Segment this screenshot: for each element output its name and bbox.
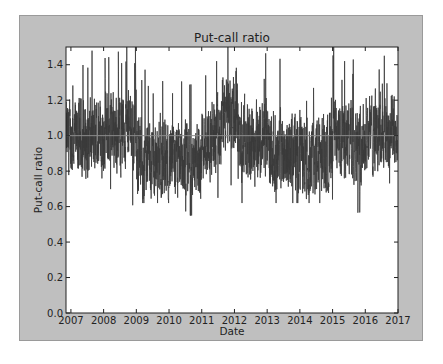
plot-area <box>66 47 398 313</box>
y-tick-label: 1.0 <box>47 130 63 141</box>
x-tick-label: 2016 <box>353 315 378 326</box>
x-tick-label: 2008 <box>91 315 116 326</box>
y-tick-label: 1.4 <box>47 59 63 70</box>
x-tick-label: 2010 <box>156 315 181 326</box>
y-tick-label: 0.6 <box>47 201 63 212</box>
chart: 0.00.20.40.60.81.01.21.4 200720082009201… <box>0 0 443 364</box>
x-axis-label: Date <box>219 325 244 337</box>
y-tick-label: 0.4 <box>47 237 63 248</box>
y-tick-label: 1.2 <box>47 95 63 106</box>
x-tick-label: 2009 <box>124 315 149 326</box>
x-tick-label: 2007 <box>58 315 83 326</box>
x-tick-label: 2017 <box>385 315 410 326</box>
x-tick-label: 2011 <box>189 315 214 326</box>
y-axis-label: Put-call ratio <box>32 147 44 213</box>
x-tick-label: 2013 <box>254 315 279 326</box>
y-tick-label: 0.2 <box>47 272 63 283</box>
chart-title: Put-call ratio <box>194 31 270 45</box>
y-tick-label: 0.8 <box>47 166 63 177</box>
x-tick-label: 2014 <box>287 315 312 326</box>
x-tick-label: 2015 <box>320 315 345 326</box>
